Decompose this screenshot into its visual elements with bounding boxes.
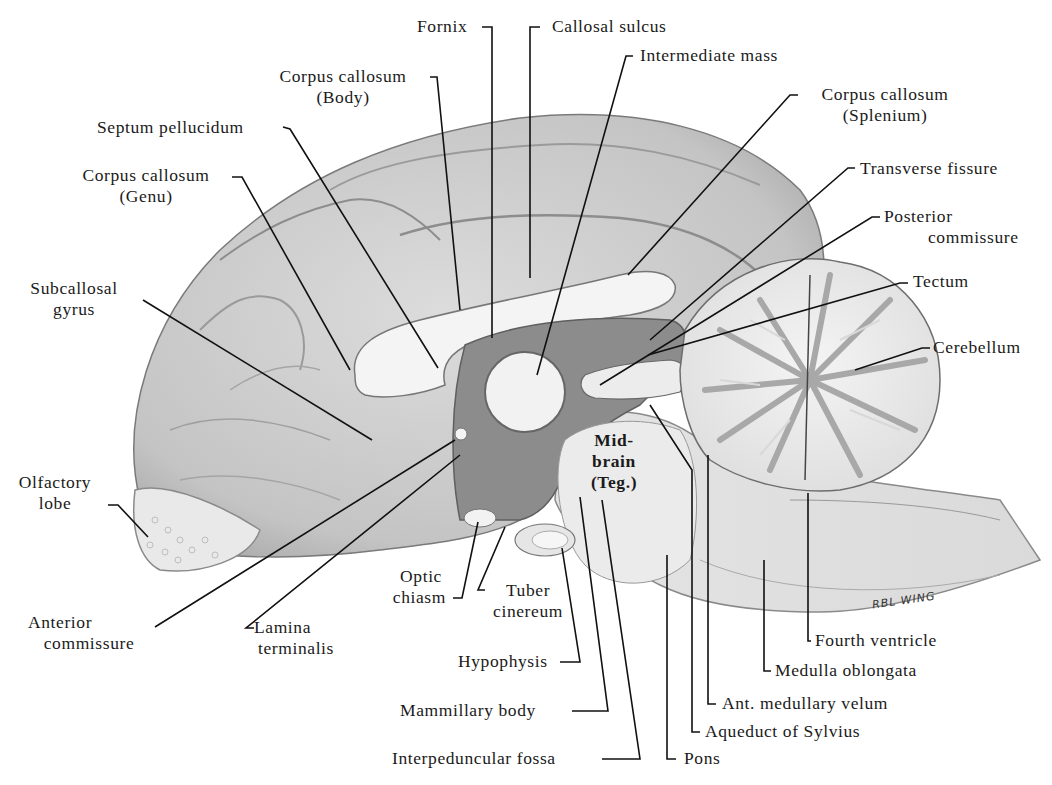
cerebellum bbox=[680, 259, 940, 491]
label-pons: Pons bbox=[684, 748, 720, 769]
brain-diagram: Fornix Callosal sulcus Intermediate mass… bbox=[0, 0, 1052, 785]
label-hypophysis: Hypophysis bbox=[458, 651, 548, 672]
label-fourth-ventricle: Fourth ventricle bbox=[815, 630, 937, 651]
label-intermediate-mass: Intermediate mass bbox=[640, 45, 778, 66]
label-callosal-sulcus: Callosal sulcus bbox=[552, 16, 666, 37]
label-tuber-cinereum: Tuber cinereum bbox=[482, 580, 574, 622]
intermediate-mass-shape bbox=[485, 352, 565, 432]
label-transverse-fissure: Transverse fissure bbox=[860, 158, 998, 179]
label-aqueduct-of-sylvius: Aqueduct of Sylvius bbox=[705, 721, 860, 742]
label-lamina-terminalis: Lamina terminalis bbox=[248, 617, 344, 659]
label-septum-pellucidum: Septum pellucidum bbox=[97, 117, 244, 138]
label-posterior-commissure: Posterior commissure bbox=[884, 206, 1019, 248]
label-anterior-commissure: Anterior commissure bbox=[20, 612, 158, 654]
label-optic-chiasm: Optic chiasm bbox=[380, 566, 456, 608]
label-subcallosal-gyrus: Subcallosal gyrus bbox=[18, 278, 130, 320]
label-corpus-callosum-body: Corpus callosum (Body) bbox=[263, 66, 423, 108]
label-mammillary-body: Mammillary body bbox=[400, 700, 536, 721]
label-ant-medullary-velum: Ant. medullary velum bbox=[722, 693, 888, 714]
label-corpus-callosum-splenium: Corpus callosum (Splenium) bbox=[805, 84, 965, 126]
label-cerebellum: Cerebellum bbox=[933, 337, 1021, 358]
label-medulla-oblongata: Medulla oblongata bbox=[775, 660, 917, 681]
label-fornix: Fornix bbox=[417, 16, 467, 37]
label-corpus-callosum-genu: Corpus callosum (Genu) bbox=[66, 165, 226, 207]
optic-chiasm-shape bbox=[464, 509, 496, 527]
label-interpeduncular-fossa: Interpeduncular fossa bbox=[392, 748, 556, 769]
label-midbrain-tegmentum: Mid- brain (Teg.) bbox=[584, 430, 644, 493]
label-tectum: Tectum bbox=[913, 271, 969, 292]
label-olfactory-lobe: Olfactory lobe bbox=[5, 472, 105, 514]
